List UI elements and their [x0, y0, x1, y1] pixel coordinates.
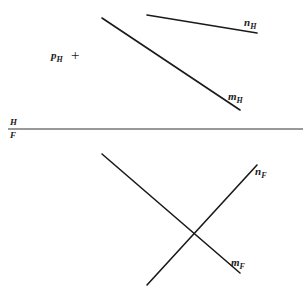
line-n-h-label: nH [244, 17, 256, 31]
line-m-h [102, 18, 240, 110]
line-m-h-label: mH [228, 91, 243, 105]
line-n-h [147, 15, 257, 33]
point-p-h-marker: + [71, 48, 79, 63]
line-m-f-label: mF [231, 257, 245, 271]
fold-label-h: H [10, 118, 17, 127]
point-p-h-label: pH [51, 50, 63, 64]
diagram-lines [0, 0, 307, 298]
line-m-f [102, 154, 240, 273]
descriptive-geometry-diagram: pH + nH mH H F nF mF [0, 0, 307, 298]
fold-label-f: F [10, 131, 16, 140]
line-n-f-label: nF [255, 166, 266, 180]
